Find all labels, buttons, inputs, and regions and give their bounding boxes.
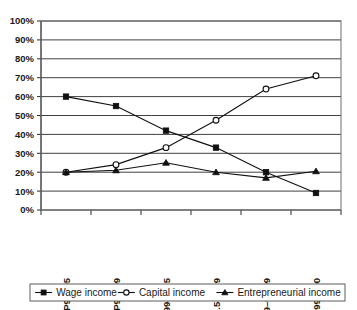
marker-filled-square	[313, 190, 318, 195]
y-axis-tick-label: 70%	[15, 72, 35, 83]
y-axis-labels-group: 0%10%20%30%40%50%60%70%80%90%100%	[10, 15, 35, 215]
marker-open-circle	[163, 145, 169, 151]
marker-filled-square	[63, 94, 68, 99]
marker-filled-triangle	[313, 168, 320, 174]
marker-filled-square	[113, 103, 118, 108]
y-axis-tick-label: 40%	[15, 129, 35, 140]
marker-open-circle	[124, 290, 129, 295]
legend-item-label: Wage income	[56, 287, 117, 298]
marker-filled-square	[213, 145, 218, 150]
marker-filled-square	[163, 128, 168, 133]
y-axis-tick-label: 80%	[15, 53, 35, 64]
series-line	[66, 97, 316, 193]
series-line	[66, 76, 316, 172]
marker-open-circle	[313, 73, 319, 79]
marker-open-circle	[213, 117, 219, 123]
series-line	[66, 163, 316, 178]
y-axis-tick-label: 50%	[15, 110, 35, 121]
gridlines-group	[41, 21, 341, 210]
marker-filled-square	[41, 290, 46, 295]
y-axis-tick-label: 90%	[15, 34, 35, 45]
marker-filled-triangle	[163, 160, 170, 166]
y-axis-tick-label: 20%	[15, 167, 35, 178]
series-entrepreneurial-income	[63, 160, 320, 181]
line-chart-canvas: 0%10%20%30%40%50%60%70%80%90%100% P90–95…	[0, 0, 357, 310]
series-wage-income	[63, 94, 318, 196]
y-axis-tick-label: 100%	[10, 15, 35, 26]
chart-legend: Wage incomeCapital incomeEntrepreneurial…	[30, 284, 345, 301]
y-axis-tick-label: 60%	[15, 91, 35, 102]
marker-open-circle	[263, 86, 269, 92]
chart-figure: 0%10%20%30%40%50%60%70%80%90%100% P90–95…	[0, 0, 357, 310]
legend-item-label: Entrepreneurial income	[237, 287, 341, 298]
series-capital-income	[63, 73, 319, 175]
y-axis-tick-label: 30%	[15, 148, 35, 159]
y-axis-tick-label: 0%	[20, 204, 34, 215]
legend-item-label: Capital income	[139, 287, 206, 298]
x-axis-ticks-group	[41, 210, 341, 215]
y-axis-tick-label: 10%	[15, 186, 35, 197]
